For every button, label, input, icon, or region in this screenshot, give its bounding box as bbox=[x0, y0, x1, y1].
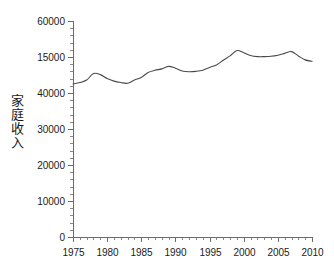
x-tick-label: 2010 bbox=[301, 247, 324, 258]
y-tick-label: 40000 bbox=[37, 88, 65, 99]
x-tick-label: 2000 bbox=[233, 247, 256, 258]
y-tick-label: 30000 bbox=[37, 124, 65, 135]
data-line-1 bbox=[73, 50, 312, 84]
y-axis-major-ticks bbox=[68, 22, 73, 238]
y-tick-label: 20000 bbox=[37, 160, 65, 171]
y-tick-label: 60000 bbox=[37, 16, 65, 27]
y-tick-label: 0 bbox=[59, 232, 65, 243]
x-tick-label: 1990 bbox=[164, 247, 187, 258]
x-axis-tick-labels: 19751980198519901995200020052010 bbox=[62, 247, 324, 258]
y-tick-label: 10000 bbox=[37, 196, 65, 207]
data-series-group bbox=[73, 50, 312, 84]
x-tick-label: 2005 bbox=[267, 247, 290, 258]
x-axis-major-ticks bbox=[74, 237, 313, 242]
x-tick-label: 1980 bbox=[96, 247, 119, 258]
x-tick-label: 1985 bbox=[130, 247, 153, 258]
y-axis-tick-labels: 6000015000400003000020000100000 bbox=[37, 16, 65, 243]
line-chart: 6000015000400003000020000100000 19751980… bbox=[0, 0, 334, 276]
y-tick-label: 15000 bbox=[37, 52, 65, 63]
y-axis-title: 家庭收入 bbox=[8, 94, 26, 150]
x-tick-label: 1975 bbox=[62, 247, 85, 258]
chart-canvas: 6000015000400003000020000100000 19751980… bbox=[0, 0, 334, 276]
x-tick-label: 1995 bbox=[199, 247, 222, 258]
